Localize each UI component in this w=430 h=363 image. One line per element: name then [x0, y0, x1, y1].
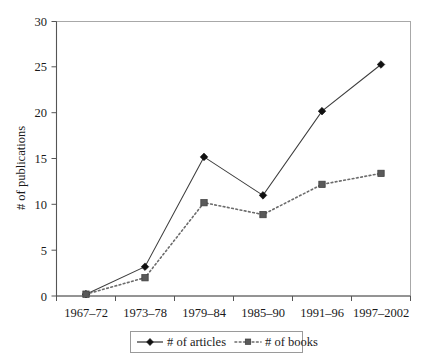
square-marker-icon [83, 291, 89, 297]
chart-svg-canvas: 30 25 20 15 10 5 0 # of publications 196… [0, 0, 430, 363]
y-tick-label-10: 10 [35, 198, 48, 212]
legend-label-articles: # of articles [167, 335, 226, 349]
x-tick-label-1973-78: 1973–78 [123, 306, 167, 320]
square-marker-icon [245, 339, 250, 344]
y-tick-label-20: 20 [35, 106, 48, 120]
square-marker-icon [142, 275, 148, 281]
legend-label-books: # of books [265, 335, 318, 349]
x-tick-label-1967-72: 1967–72 [64, 306, 108, 320]
publications-line-chart: 30 25 20 15 10 5 0 # of publications 196… [0, 0, 430, 363]
y-tick-label-15: 15 [35, 152, 48, 166]
square-marker-icon [260, 211, 266, 217]
y-tick-label-30: 30 [35, 15, 48, 29]
x-tick-label-1991-96: 1991–96 [300, 306, 344, 320]
square-marker-icon [378, 170, 384, 176]
x-tick-label-1979-84: 1979–84 [182, 306, 227, 320]
y-tick-label-25: 25 [35, 60, 48, 74]
y-tick-label-0: 0 [41, 290, 47, 304]
x-tick-label-1997-2002: 1997–2002 [353, 306, 409, 320]
chart-legend: # of articles # of books [131, 332, 318, 353]
square-marker-icon [201, 199, 207, 205]
x-tick-label-1985-90: 1985–90 [241, 306, 285, 320]
y-axis-title: # of publications [14, 126, 28, 210]
square-marker-icon [319, 181, 325, 187]
y-tick-label-5: 5 [41, 244, 47, 258]
